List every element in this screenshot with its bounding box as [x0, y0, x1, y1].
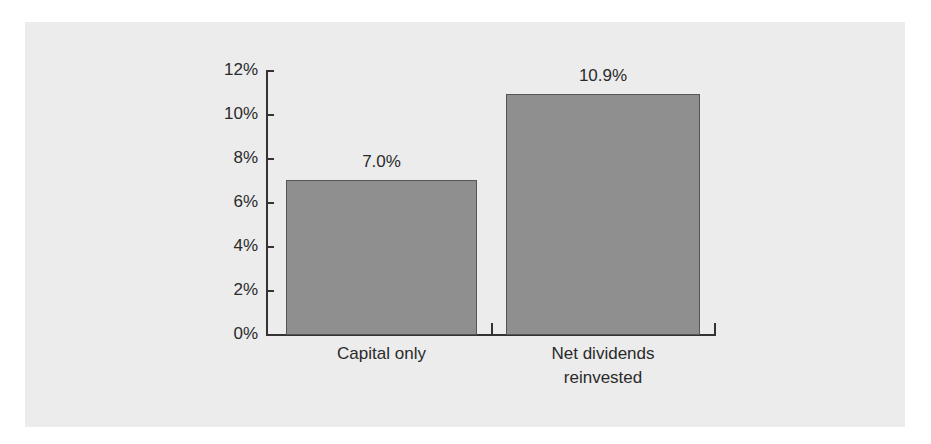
- y-tick: [266, 246, 274, 248]
- x-tick: [714, 323, 716, 335]
- y-tick: [266, 290, 274, 292]
- bar-chart: 0%2%4%6%8%10%12%7.0%Capital only10.9%Net…: [0, 0, 931, 444]
- y-tick: [266, 114, 274, 116]
- bar-value-label: 7.0%: [286, 153, 477, 171]
- y-tick-label: 6%: [208, 193, 258, 211]
- category-label: Net dividends: [486, 343, 720, 365]
- y-tick-label: 8%: [208, 149, 258, 167]
- y-tick: [266, 202, 274, 204]
- y-tick: [266, 70, 274, 72]
- category-label: Capital only: [266, 343, 497, 365]
- y-tick-label: 4%: [208, 237, 258, 255]
- category-label: reinvested: [486, 367, 720, 389]
- y-tick-label: 12%: [208, 61, 258, 79]
- y-tick: [266, 334, 274, 336]
- bar-value-label: 10.9%: [506, 67, 700, 85]
- y-tick: [266, 158, 274, 160]
- x-tick: [491, 323, 493, 335]
- bar-2: [506, 94, 700, 335]
- y-tick-label: 10%: [208, 105, 258, 123]
- y-tick-label: 2%: [208, 281, 258, 299]
- y-tick-label: 0%: [208, 325, 258, 343]
- bar-1: [286, 180, 477, 335]
